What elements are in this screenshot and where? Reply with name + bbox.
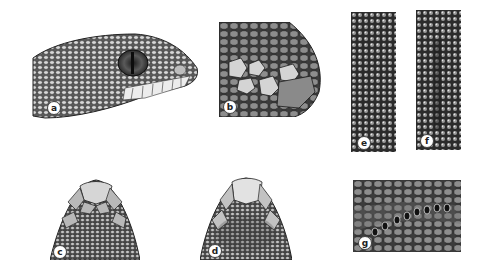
panel-a-lateral-head: a bbox=[25, 30, 200, 120]
panel-label-b: b bbox=[223, 100, 237, 114]
panel-label-f: f bbox=[420, 134, 434, 148]
panel-f-dorsal-strip: f bbox=[416, 10, 461, 150]
panel-label-e: e bbox=[357, 136, 371, 150]
panel-b-snout-closeup: b bbox=[219, 22, 326, 117]
panel-d-snout-dorsal: d bbox=[200, 176, 292, 260]
dorsal-scale-strip-f bbox=[416, 10, 461, 150]
panel-label-g: g bbox=[358, 236, 372, 250]
panel-label-d: d bbox=[208, 244, 222, 258]
panel-e-dorsal-strip: e bbox=[351, 12, 396, 152]
panel-g-labial-pits: g bbox=[353, 180, 461, 252]
panel-label-c: c bbox=[53, 245, 67, 259]
panel-c-snout-dorsal: c bbox=[50, 178, 140, 260]
dorsal-scale-strip-e bbox=[351, 12, 396, 152]
panel-label-a: a bbox=[47, 101, 61, 115]
